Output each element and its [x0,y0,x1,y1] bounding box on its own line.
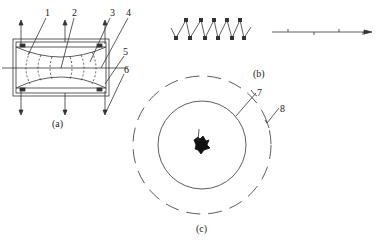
corner-block [20,88,25,91]
label-8: 8 [280,103,285,114]
figure-canvas: 1 2 3 4 5 6 (a) (b) [0,0,378,241]
arrows-up [19,20,107,44]
label-1: 1 [45,7,50,18]
leader-7 [236,93,256,116]
label-2: 2 [72,7,77,18]
corner-block [20,44,25,47]
label-5: 5 [123,46,128,57]
arrows-down [19,91,107,115]
leader-lines [28,18,128,112]
panel-a-labels: 1 2 3 4 5 6 (a) [45,7,131,130]
label-3: 3 [110,7,115,18]
leader-8 [267,108,279,123]
arrowhead [364,30,372,34]
chain-nodes [174,18,246,40]
zigzag-chain [171,20,251,38]
label-6: 6 [124,64,129,75]
label-4: 4 [126,7,131,18]
corner-block [97,88,102,91]
panel-b [171,18,372,40]
caption-a: (a) [52,118,63,130]
caption-c: (c) [196,223,207,235]
center-nucleus [194,136,210,154]
label-7: 7 [257,87,262,98]
bottom-curve [16,77,106,88]
panel-a [2,18,128,115]
panel-c-labels: 7 8 (c) [196,87,285,235]
caption-b: (b) [253,68,265,80]
